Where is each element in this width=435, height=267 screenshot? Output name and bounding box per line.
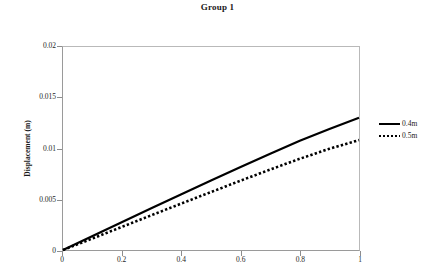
chart-title: Group 1 (0, 2, 435, 12)
chart-figure: Group 1 Displacement (m) 00.0050.010.015… (0, 0, 435, 267)
legend-label-0: 0.4m (400, 119, 417, 129)
y-tick-label: 0.02 (43, 42, 56, 50)
legend-label-1: 0.5m (400, 131, 417, 141)
y-tick-label: 0 (52, 247, 56, 255)
x-tick-label: 1 (358, 256, 362, 264)
y-tick-label: 0.005 (39, 196, 56, 204)
x-tick-label: 0.6 (236, 256, 245, 264)
y-tick-label: 0.015 (39, 93, 56, 101)
x-tick-label: 0 (60, 256, 64, 264)
y-axis-title: Displacement (m) (22, 46, 34, 251)
y-tick-label: 0.01 (43, 145, 56, 153)
legend-item-0: 0.4m (379, 118, 435, 130)
series-line-0.4m (63, 118, 359, 250)
x-tick-label: 0.8 (296, 256, 305, 264)
legend: 0.4m 0.5m (379, 118, 435, 142)
series-lines (63, 47, 359, 250)
legend-swatch-dotted-icon (379, 131, 400, 141)
series-line-0.5m (63, 140, 359, 250)
x-tick-label: 0.2 (117, 256, 126, 264)
legend-swatch-solid-icon (379, 119, 400, 129)
plot-area (62, 46, 360, 251)
x-tick-label: 0.4 (177, 256, 186, 264)
legend-item-1: 0.5m (379, 130, 435, 142)
